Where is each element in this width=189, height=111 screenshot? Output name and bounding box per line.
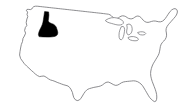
lake-ontario-outline — [138, 32, 146, 35]
lake-huron-outline — [127, 24, 133, 35]
us-locator-map-figure — [0, 0, 189, 111]
us-map-svg — [0, 0, 189, 111]
